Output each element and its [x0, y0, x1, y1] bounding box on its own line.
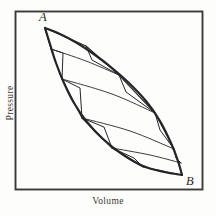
- upper-reversible-path: [45, 28, 182, 175]
- curve-layer: [45, 28, 182, 175]
- carnot-staircase: [45, 28, 182, 175]
- diagram-canvas: [0, 0, 216, 216]
- y-axis-label: Pressure: [5, 71, 15, 135]
- x-axis-label: Volume: [0, 196, 216, 206]
- point-label-b: B: [186, 174, 194, 189]
- point-label-a: A: [39, 10, 47, 25]
- pressure-volume-figure: Pressure Volume A B: [0, 0, 216, 216]
- lower-reversible-path: [45, 28, 182, 175]
- plot-frame: [16, 12, 203, 190]
